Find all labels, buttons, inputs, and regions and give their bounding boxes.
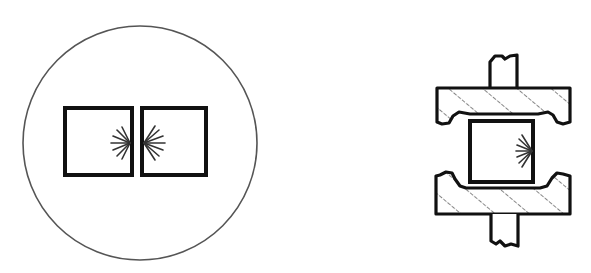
right-square — [142, 108, 206, 175]
right-radiating-marks-icon — [144, 126, 165, 160]
left-panel — [23, 26, 257, 260]
bottom-rod — [491, 214, 518, 246]
right-panel — [436, 55, 570, 246]
left-radiating-marks-icon — [111, 127, 130, 159]
top-rod — [490, 55, 517, 88]
diagram-canvas — [0, 0, 591, 273]
top-clamp-plate — [437, 88, 570, 124]
left-square — [65, 108, 132, 175]
